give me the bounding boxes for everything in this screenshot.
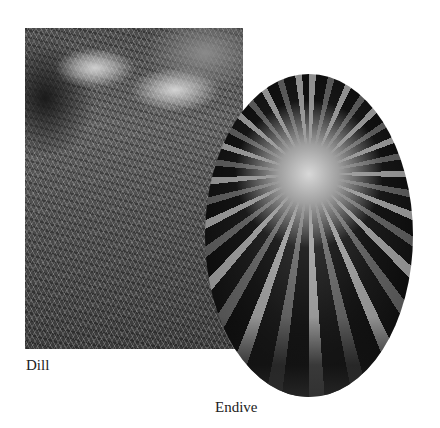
endive-caption: Endive bbox=[215, 400, 258, 415]
dill-caption: Dill bbox=[26, 358, 49, 373]
endive-photo bbox=[205, 74, 413, 397]
